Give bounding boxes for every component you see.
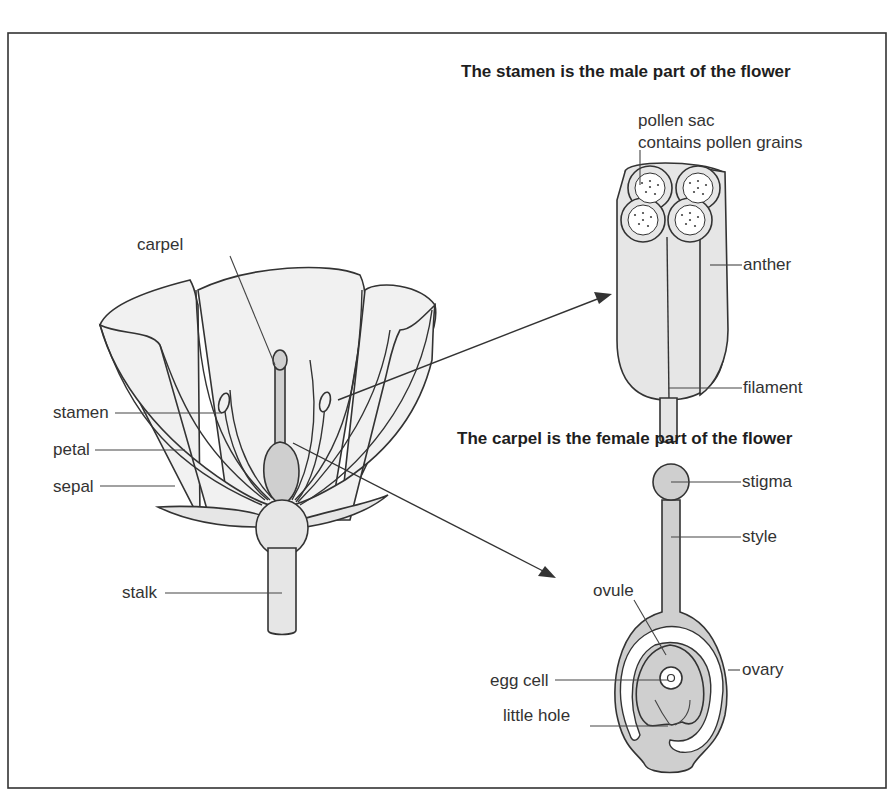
stamen-title: The stamen is the male part of the flowe… bbox=[461, 62, 791, 81]
label-sepal: sepal bbox=[53, 477, 94, 496]
carpel-title: The carpel is the female part of the flo… bbox=[457, 429, 793, 448]
label-anther: anther bbox=[743, 255, 792, 274]
label-little-hole: little hole bbox=[503, 706, 570, 725]
label-stamen: stamen bbox=[53, 403, 109, 422]
label-ovule: ovule bbox=[593, 581, 634, 600]
label-stigma: stigma bbox=[742, 472, 793, 491]
label-pollen-sac: pollen sac bbox=[638, 111, 715, 130]
label-ovary: ovary bbox=[742, 660, 784, 679]
label-pollen-sac-note: contains pollen grains bbox=[638, 133, 802, 152]
flower-diagram: carpel stamen petal sepal stalk The stam… bbox=[0, 0, 890, 800]
label-petal: petal bbox=[53, 440, 90, 459]
label-filament: filament bbox=[743, 378, 803, 397]
label-egg-cell: egg cell bbox=[490, 671, 549, 690]
label-carpel: carpel bbox=[137, 235, 183, 254]
label-style: style bbox=[742, 527, 777, 546]
label-stalk: stalk bbox=[122, 583, 157, 602]
